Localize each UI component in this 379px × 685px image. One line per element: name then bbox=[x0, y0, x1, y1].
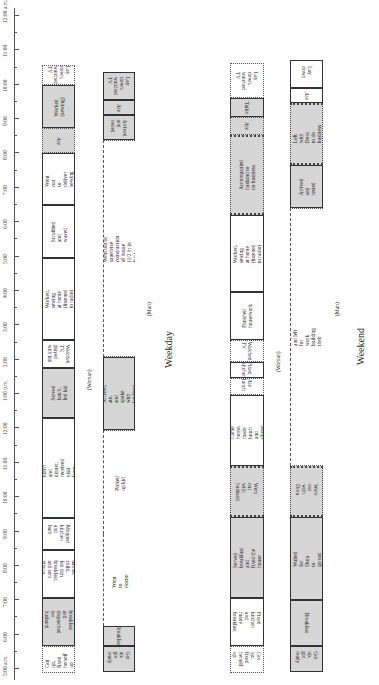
weekend-woman-block: Went out with husband bbox=[230, 466, 264, 517]
axis-tick-label: 3:00 bbox=[2, 323, 8, 333]
weekday-man-block: Went out to supervise construction of ho… bbox=[103, 140, 135, 357]
weekend-man-block: Got up, got ready bbox=[290, 646, 323, 672]
axis-tick bbox=[14, 393, 19, 394]
axis-tick-label: 9:00 bbox=[2, 529, 8, 539]
axis-tick-label: 6:00 bbox=[2, 632, 8, 642]
weekend-man-block: Left with Dora to do business bbox=[290, 103, 323, 165]
axis-tick bbox=[14, 118, 19, 119]
weekend-man-label: (Man) bbox=[334, 302, 340, 316]
axis-minor-tick bbox=[14, 101, 17, 102]
axis-tick-label: 8:00 bbox=[2, 151, 8, 161]
axis-minor-tick bbox=[14, 582, 17, 583]
weekend-woman-block: Fixed kitchen bbox=[230, 362, 264, 378]
weekday-man-block: Arrived, ate, and spoke with landlord bbox=[103, 357, 135, 430]
weekday-woman-block: Worked (sewing) bbox=[42, 85, 75, 128]
weekend-woman-block: Accompanied husband to do business bbox=[230, 135, 264, 215]
axis-minor-tick bbox=[14, 135, 17, 136]
weekday-woman-block: Got up, fixed herself up bbox=[42, 646, 75, 673]
axis-minor-tick bbox=[14, 32, 17, 33]
weekend-woman-block: Finished housework bbox=[230, 292, 264, 340]
axis-minor-tick bbox=[14, 204, 17, 205]
axis-tick bbox=[14, 496, 19, 497]
axis-minor-tick bbox=[14, 548, 17, 549]
weekend-woman-block: Tailor bbox=[230, 98, 264, 117]
axis-minor-tick bbox=[14, 67, 17, 68]
axis-tick bbox=[14, 256, 19, 257]
axis-tick bbox=[14, 599, 19, 600]
time-axis bbox=[14, 8, 15, 680]
axis-minor-tick bbox=[14, 273, 17, 274]
axis-minor-tick bbox=[14, 479, 17, 480]
weekday-man-block: Breakfast bbox=[103, 626, 135, 646]
weekday-woman-label: (Woman) bbox=[86, 369, 92, 390]
axis-tick bbox=[14, 462, 19, 463]
axis-tick-label: 12:00 bbox=[2, 423, 8, 436]
weekday-man-block: Picked up kid bbox=[103, 430, 135, 534]
weekend-woman-block: Lay down, watched TV bbox=[230, 63, 264, 98]
axis-tick-label: 7:00 bbox=[2, 597, 8, 607]
axis-tick-label: 2:00 bbox=[2, 357, 8, 367]
weekend-man-block: Breakfast bbox=[290, 600, 323, 646]
axis-tick bbox=[14, 531, 19, 532]
axis-tick bbox=[14, 221, 19, 222]
weekday-man-block: Lay down, watched TV bbox=[103, 72, 135, 100]
axis-tick bbox=[14, 359, 19, 360]
axis-tick bbox=[14, 565, 19, 566]
weekday-title: Weekday bbox=[163, 331, 174, 368]
weekday-man-label: (Man) bbox=[146, 302, 152, 316]
axis-tick bbox=[14, 187, 19, 188]
weekday-man-block: Arrived and rested bbox=[103, 115, 135, 140]
axis-minor-tick bbox=[14, 342, 17, 343]
axis-tick bbox=[14, 634, 19, 635]
weekend-woman-block: Ate bbox=[230, 117, 264, 135]
axis-tick-label: 10:00 bbox=[2, 79, 8, 92]
weekend-woman-block: Watched TV bbox=[230, 340, 264, 362]
axis-tick bbox=[14, 49, 19, 50]
weekend-woman-block: Served breakfast and fixed the house bbox=[230, 517, 264, 598]
axis-minor-tick bbox=[14, 651, 17, 652]
axis-tick-label: 10:00 bbox=[2, 492, 8, 505]
weekend-man-block: Went out with Dora bbox=[290, 466, 323, 517]
weekend-woman-block: Ate lunch bbox=[230, 378, 264, 395]
weekend-woman-block: Came home, made lunch and dinner bbox=[230, 395, 264, 466]
weekday-woman-block: Worked, sewing at home (listened to radi… bbox=[42, 258, 75, 340]
axis-tick-label: 9:00 bbox=[2, 116, 8, 126]
weekday-woman-block: Cleaned kitchen, bathed child, fed him b… bbox=[42, 550, 75, 598]
weekend-man-block: Lay down bbox=[290, 60, 323, 88]
weekday-woman-block: Went out to deliver sewing bbox=[42, 153, 75, 205]
axis-minor-tick bbox=[14, 376, 17, 377]
axis-tick-label: 6:00 bbox=[2, 219, 8, 229]
weekday-woman-block: Fixed breakfast and dispatched her husba… bbox=[42, 598, 75, 646]
axis-tick-label: 11:00 bbox=[2, 45, 8, 57]
weekend-man-block: Arrived and left for work building their… bbox=[290, 208, 323, 466]
weekday-woman-block: Watched TV, played with kid bbox=[42, 340, 75, 368]
axis-tick-label: 5:00 a.m. bbox=[2, 655, 8, 676]
axis-tick-label: 5:00 bbox=[2, 254, 8, 264]
weekend-woman-block: Fixed kitchen and made breakfast bbox=[230, 598, 264, 646]
weekday-woman-block: Served lunch, fed kid bbox=[42, 368, 75, 418]
axis-tick-label: 12:00 a.m. bbox=[2, 0, 8, 23]
weekend-woman-block: Got up, fixed herself up bbox=[230, 646, 264, 673]
axis-minor-tick bbox=[14, 238, 17, 239]
weekday-man-block: Ate bbox=[103, 100, 135, 115]
axis-tick bbox=[14, 84, 19, 85]
axis-tick bbox=[14, 324, 19, 325]
axis-tick-label: 4:00 bbox=[2, 288, 8, 298]
weekend-man-block: Waited for Dora to go out bbox=[290, 517, 323, 600]
weekend-title: Weekend bbox=[355, 328, 366, 365]
weekend-woman-block: Worked, sewing at home (listened to radi… bbox=[230, 215, 264, 292]
axis-tick bbox=[14, 152, 19, 153]
axis-tick-label: 8:00 bbox=[2, 563, 8, 573]
weekday-woman-block: Made lunch and dinner, received visit fr… bbox=[42, 418, 75, 518]
weekday-man-block: Went to doctor bbox=[103, 534, 135, 626]
axis-minor-tick bbox=[14, 410, 17, 411]
weekday-woman-block: Scrubbed and waxed bbox=[42, 205, 75, 258]
axis-tick bbox=[14, 290, 19, 291]
weekend-man-block: Arrived and rested bbox=[290, 165, 323, 208]
axis-minor-tick bbox=[14, 616, 17, 617]
axis-tick-label: 11:00 bbox=[2, 457, 8, 469]
weekend-woman-label: (Woman) bbox=[275, 351, 281, 372]
axis-minor-tick bbox=[14, 513, 17, 514]
axis-minor-tick bbox=[14, 170, 17, 171]
weekday-woman-block: Lay down, watched TV bbox=[42, 65, 75, 85]
